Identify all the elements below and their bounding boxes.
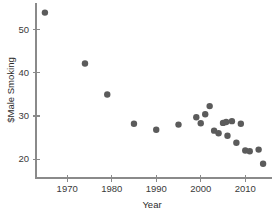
data-point <box>238 121 244 127</box>
x-tick-label-1980: 1980 <box>101 183 122 194</box>
y-tick-label-20: 20 <box>18 153 29 164</box>
y-tick-label-40: 40 <box>18 67 29 78</box>
data-point <box>255 146 261 152</box>
x-axis-title: Year <box>142 199 161 210</box>
x-tick-label-2010: 2010 <box>235 183 256 194</box>
data-point <box>233 140 239 146</box>
data-point <box>247 148 253 154</box>
data-point <box>42 9 48 15</box>
y-tick-label-30: 30 <box>18 110 29 121</box>
y-axis-title: $Male Smoking <box>5 57 16 122</box>
data-point <box>206 103 212 109</box>
data-point <box>260 161 266 167</box>
y-tick-label-50: 50 <box>18 24 29 35</box>
data-point <box>198 120 204 126</box>
data-point <box>153 127 159 133</box>
data-point <box>82 60 88 66</box>
x-tick-label-1970: 1970 <box>57 183 78 194</box>
data-points <box>42 9 267 167</box>
scatter-chart: 20304050 19701980199020002010 Year $Male… <box>0 0 278 214</box>
data-point <box>175 121 181 127</box>
plot-area: 20304050 19701980199020002010 Year $Male… <box>0 0 278 214</box>
data-point <box>224 133 230 139</box>
x-axis: 19701980199020002010 <box>35 175 272 195</box>
data-point <box>215 130 221 136</box>
x-tick-label-1990: 1990 <box>146 183 167 194</box>
data-point <box>193 114 199 120</box>
data-point <box>131 121 137 127</box>
data-point <box>223 119 229 125</box>
data-point <box>104 91 110 97</box>
x-tick-label-2000: 2000 <box>190 183 211 194</box>
data-point <box>202 111 208 117</box>
y-axis: 20304050 <box>18 3 39 178</box>
data-point <box>229 118 235 124</box>
